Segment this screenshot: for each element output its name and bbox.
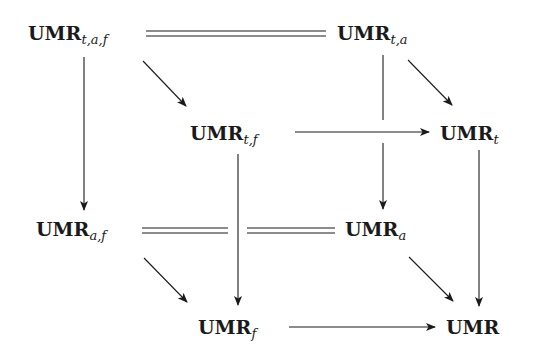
node-umr-af: UMRa,f xyxy=(36,220,106,242)
edge-a-base xyxy=(409,257,453,301)
node-label: UMR xyxy=(36,218,89,240)
node-umr-taf: UMRt,a,f xyxy=(28,24,107,46)
node-subscript: a xyxy=(398,228,406,243)
node-umr-tf: UMRt,f xyxy=(190,124,258,146)
node-label: UMR xyxy=(345,218,398,240)
node-subscript: t,a xyxy=(390,32,407,47)
node-label: UMR xyxy=(440,122,493,144)
node-label: UMR xyxy=(190,122,243,144)
node-subscript: a,f xyxy=(89,228,106,243)
node-umr: UMR xyxy=(446,318,499,337)
edge-ta-t xyxy=(408,60,452,105)
node-subscript: t,a,f xyxy=(81,32,107,47)
node-label: UMR xyxy=(337,22,390,44)
node-subscript: f xyxy=(251,326,256,341)
node-umr-f: UMRf xyxy=(198,318,256,340)
edge-taf-tf xyxy=(143,61,186,106)
node-umr-t: UMRt xyxy=(440,124,499,146)
node-subscript: t,f xyxy=(243,132,257,147)
node-subscript: t xyxy=(493,132,498,147)
node-label: UMR xyxy=(446,316,499,338)
edge-af-f xyxy=(144,258,187,302)
diagram-edges xyxy=(0,0,541,360)
node-label: UMR xyxy=(198,316,251,338)
node-umr-a: UMRa xyxy=(345,220,406,242)
node-label: UMR xyxy=(28,22,81,44)
node-umr-ta: UMRt,a xyxy=(337,24,408,46)
edge-taf-ta-equal xyxy=(146,31,326,36)
